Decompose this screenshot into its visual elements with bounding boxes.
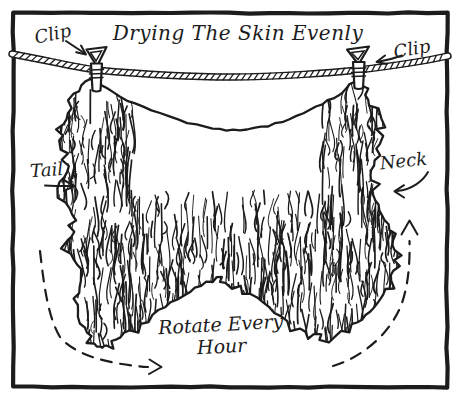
arrow-neck xyxy=(395,172,429,198)
rotate-label-line2: Hour xyxy=(195,334,248,359)
clip-left-label: Clip xyxy=(32,19,73,47)
skin-drying-diagram: Drying The Skin Evenly Clip Clip Tail Ne… xyxy=(0,0,460,400)
arrow-clip-left xyxy=(66,41,86,55)
neck-label: Neck xyxy=(378,148,428,174)
tail-label: Tail xyxy=(29,158,63,181)
title-label: Drying The Skin Evenly xyxy=(112,21,364,45)
drawing-canvas: Drying The Skin Evenly Clip Clip Tail Ne… xyxy=(0,0,460,400)
rotate-label-line1: Rotate Every xyxy=(156,310,284,339)
